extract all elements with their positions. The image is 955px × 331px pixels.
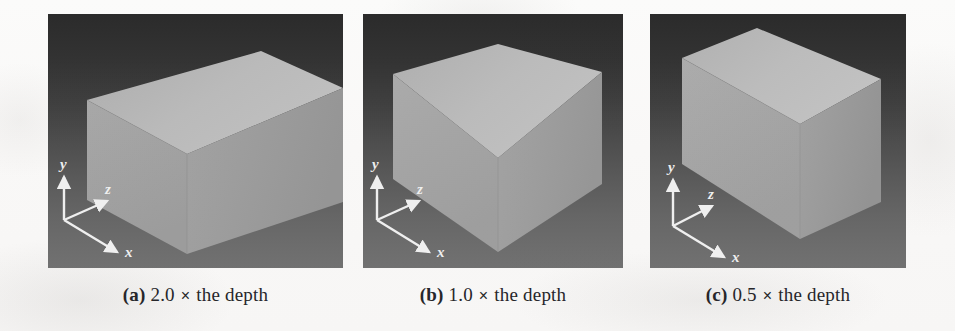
caption-label-a: (a) [123, 284, 146, 305]
axis-triad-b: y z x [363, 14, 623, 268]
axis-label-y-a: y [58, 156, 67, 172]
axis-line-x-a [64, 220, 117, 252]
axis-triad-c: y z x [650, 14, 906, 268]
axis-label-x-c: x [731, 249, 740, 265]
axis-line-z-a [64, 201, 107, 220]
render-panel-c: y z x [650, 14, 906, 268]
caption-description-a: the depth [196, 284, 268, 305]
axis-line-z-b [377, 201, 419, 220]
caption-label-c: (c) [706, 284, 728, 305]
caption-multiply-icon-b: × [478, 287, 490, 304]
render-panel-group: y z x [0, 0, 955, 272]
caption-label-b: (b) [420, 284, 444, 305]
axis-line-z-c [673, 206, 712, 226]
caption-scale-c: 0.5 [732, 284, 756, 305]
caption-panel-a: (a) 2.0 × the depth [48, 284, 343, 306]
render-panel-b: y z x [363, 14, 623, 268]
caption-multiply-icon-a: × [180, 287, 192, 304]
axis-line-x-b [377, 220, 429, 252]
render-panel-a: y z x [48, 14, 343, 268]
axis-label-y-b: y [370, 156, 379, 172]
axis-label-z-b: z [416, 181, 423, 197]
caption-group: (a) 2.0 × the depth (b) 1.0 × the depth … [0, 272, 955, 331]
caption-scale-b: 1.0 [448, 284, 472, 305]
caption-description-b: the depth [494, 284, 566, 305]
axis-label-z-a: z [104, 181, 111, 197]
caption-scale-a: 2.0 [150, 284, 174, 305]
caption-multiply-icon-c: × [762, 287, 774, 304]
axis-line-x-c [673, 226, 724, 257]
caption-panel-b: (b) 1.0 × the depth [363, 284, 623, 306]
axis-label-y-c: y [666, 159, 675, 175]
caption-description-c: the depth [778, 284, 850, 305]
axis-label-x-a: x [124, 244, 133, 260]
axis-label-x-b: x [436, 244, 445, 260]
axis-label-z-c: z [707, 186, 714, 202]
figure-root: y z x [0, 0, 955, 331]
axis-triad-a: y z x [48, 14, 343, 268]
caption-panel-c: (c) 0.5 × the depth [650, 284, 906, 306]
